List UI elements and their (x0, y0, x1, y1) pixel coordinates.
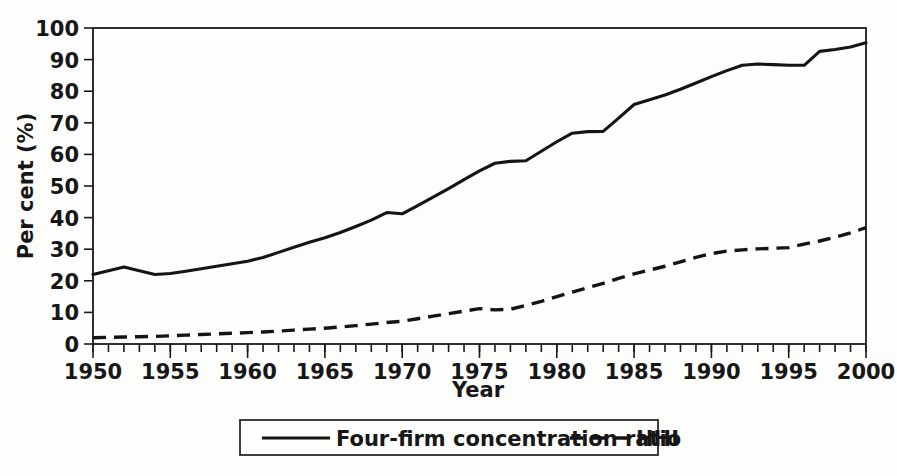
x-tick-label: 1995 (759, 360, 817, 384)
chart-figure: 0102030405060708090100 19501955196019651… (0, 0, 897, 476)
y-tick-label: 10 (50, 301, 79, 325)
x-tick-label: 1960 (218, 360, 276, 384)
series-hhi (93, 228, 866, 338)
x-tick-label: 2000 (837, 360, 895, 384)
x-axis-title: Year (451, 378, 505, 402)
y-tick-label: 30 (50, 238, 79, 262)
plot-frame (93, 28, 866, 344)
x-tick-label: 1990 (682, 360, 740, 384)
line-chart: 0102030405060708090100 19501955196019651… (0, 0, 897, 476)
y-tick-label: 70 (50, 112, 79, 136)
x-tick-label: 1970 (373, 360, 431, 384)
y-tick-label: 0 (64, 333, 79, 357)
y-tick-label: 100 (35, 17, 79, 41)
legend-label-hhi: HHI (636, 427, 679, 451)
y-tick-label: 50 (50, 175, 79, 199)
x-tick-label: 1965 (296, 360, 354, 384)
data-series-group (93, 43, 866, 338)
y-axis-tick-labels: 0102030405060708090100 (35, 17, 79, 357)
series-four-firm-concentration-ratio (93, 43, 866, 275)
y-tick-label: 90 (50, 49, 79, 73)
x-tick-label: 1950 (64, 360, 122, 384)
y-tick-label: 80 (50, 80, 79, 104)
x-tick-label: 1955 (141, 360, 199, 384)
y-tick-label: 40 (50, 207, 79, 231)
legend-label-four-firm-concentration-ratio: Four-firm concentration ratio (336, 427, 681, 451)
y-tick-label: 60 (50, 143, 79, 167)
x-tick-label: 1980 (528, 360, 586, 384)
chart-legend: Four-firm concentration ratio HHI (240, 420, 681, 455)
y-tick-label: 20 (50, 270, 79, 294)
y-axis-title: Per cent (%) (14, 113, 38, 260)
y-axis-ticks (84, 28, 93, 344)
x-axis-major-ticks (93, 344, 866, 358)
x-tick-label: 1985 (605, 360, 663, 384)
